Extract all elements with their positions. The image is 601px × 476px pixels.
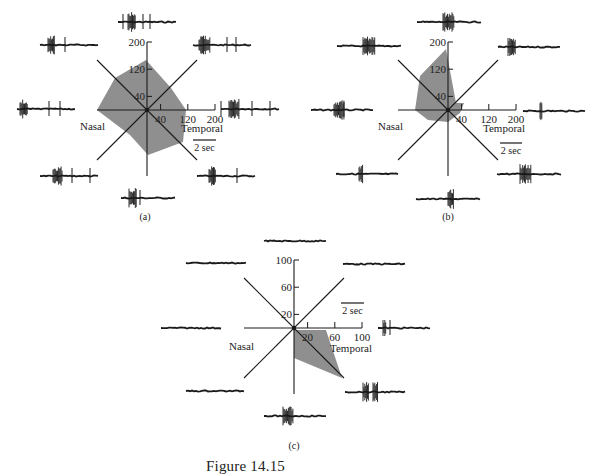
temporal-label: Temporal <box>181 122 223 134</box>
panel-label: (b) <box>442 211 454 223</box>
panel-b: 4040120120200200NasalTemporal2 sec(b) <box>311 12 585 223</box>
horizontal-tick-label: 40 <box>456 113 468 125</box>
radial-tick-label: 40 <box>134 90 146 102</box>
panel-a: 4040120120200200NasalTemporal2 sec(a) <box>17 12 279 223</box>
spike-trace <box>311 100 373 119</box>
spike-trace <box>193 36 251 55</box>
spike-trace <box>497 164 561 184</box>
temporal-label: Temporal <box>483 122 525 134</box>
spike-trace <box>186 263 246 264</box>
nasal-label: Nasal <box>378 120 403 132</box>
spike-trace <box>121 188 175 208</box>
radial-tick-label: 200 <box>129 36 146 48</box>
spike-trace <box>337 37 401 56</box>
temporal-label: Temporal <box>330 342 372 354</box>
spike-trace <box>264 240 326 241</box>
panel-label: (c) <box>288 440 299 452</box>
spike-trace <box>40 167 98 186</box>
horizontal-tick-label: 20 <box>302 331 314 343</box>
radial-tick-label: 100 <box>276 254 293 266</box>
scale-bar-label: 2 sec <box>501 145 522 156</box>
spike-trace <box>264 407 326 426</box>
scale-bar-label: 2 sec <box>194 142 215 153</box>
horizontal-tick-label: 40 <box>155 113 167 125</box>
spike-trace <box>416 189 480 209</box>
spike-trace <box>523 102 585 120</box>
radial-tick-label: 120 <box>430 63 447 75</box>
panel-label: (a) <box>139 211 150 223</box>
spike-trace <box>343 263 405 264</box>
spike-trace <box>186 390 244 391</box>
spike-trace <box>498 38 560 56</box>
radial-tick-label: 20 <box>281 308 293 320</box>
spike-trace <box>336 165 398 183</box>
spike-trace <box>417 12 481 31</box>
figure-caption: Figure 14.15 <box>206 458 285 475</box>
scale-bar-label: 2 sec <box>342 305 363 316</box>
spike-trace <box>40 36 98 55</box>
figure-14-15: 4040120120200200NasalTemporal2 sec(a)404… <box>0 0 601 476</box>
spike-trace <box>345 382 405 402</box>
spike-trace <box>197 166 255 185</box>
spike-trace <box>17 100 75 119</box>
radial-tick-label: 40 <box>435 90 447 102</box>
radial-tick-label: 200 <box>430 36 447 48</box>
nasal-label: Nasal <box>229 340 254 352</box>
spike-trace <box>378 320 430 336</box>
spike-trace <box>118 12 176 32</box>
polar-axes <box>244 260 362 394</box>
spike-trace <box>161 327 221 328</box>
radial-tick-label: 60 <box>281 281 293 293</box>
nasal-label: Nasal <box>80 120 105 132</box>
tuning-polygon <box>415 49 464 122</box>
radial-tick-label: 120 <box>129 63 146 75</box>
panel-c: 20206060100100NasalTemporal2 sec(c) <box>161 240 430 452</box>
spike-trace <box>221 99 279 119</box>
